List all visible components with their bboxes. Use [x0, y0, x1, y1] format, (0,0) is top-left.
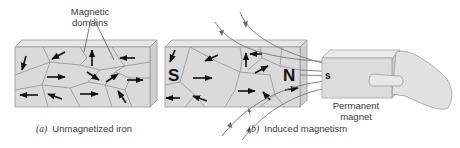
unmagnetized-iron-block [15, 19, 157, 107]
caption-a: (a) Unmagnetized iron [36, 123, 132, 134]
magnet-pole-label: s [325, 70, 331, 81]
magnet-label-line-1: Permanent [328, 100, 384, 111]
label-line-1: Magnetic [50, 6, 130, 17]
north-pole-label: N [283, 66, 295, 86]
permanent-magnet [322, 50, 400, 98]
magnetic-domains-label: Magnetic domains [50, 6, 130, 28]
label-line-2: domains [50, 17, 130, 28]
permanent-magnet-label: Permanent magnet [328, 100, 384, 122]
caption-b-text: Induced magnetism [264, 123, 347, 134]
caption-b-letter: (b) [248, 124, 259, 134]
caption-a-text: Unmagnetized iron [52, 123, 132, 134]
caption-b: (b) Induced magnetism [248, 123, 347, 134]
south-pole-label: S [168, 66, 179, 86]
magnet-label-line-2: magnet [328, 111, 384, 122]
caption-a-letter: (a) [36, 124, 47, 134]
